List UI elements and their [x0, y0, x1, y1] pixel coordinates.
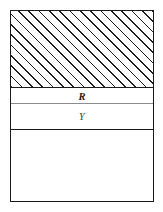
hatched-region — [11, 11, 153, 88]
figure-root: R Y — [0, 0, 163, 212]
band-y: Y — [11, 105, 153, 130]
empty-region — [11, 132, 153, 201]
band-r: R — [11, 90, 153, 104]
band-y-label: Y — [11, 112, 153, 122]
diagram-frame: R Y — [10, 10, 154, 202]
band-r-label: R — [11, 92, 153, 103]
